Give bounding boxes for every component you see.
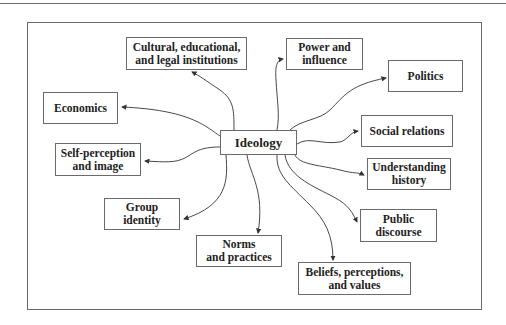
node-group: Group identity: [104, 198, 180, 230]
node-label: Power and influence: [298, 41, 351, 67]
node-label: Politics: [408, 70, 444, 83]
node-label: Group identity: [123, 201, 161, 227]
node-history: Understanding history: [367, 158, 451, 190]
node-label: Understanding history: [372, 161, 446, 187]
edge-to-self: [145, 147, 220, 162]
node-label: Beliefs, perceptions, and values: [306, 266, 404, 292]
node-label: Cultural, educational, and legal institu…: [133, 41, 241, 67]
edge-to-history: [295, 155, 364, 175]
node-politics: Politics: [388, 60, 463, 92]
node-cultural: Cultural, educational, and legal institu…: [126, 37, 247, 70]
edge-to-norms: [247, 155, 260, 233]
node-label: Social relations: [370, 125, 445, 138]
node-label: Economics: [54, 102, 107, 115]
node-norms: Norms and practices: [196, 235, 282, 267]
node-power: Power and influence: [286, 38, 363, 70]
edge-to-cultural: [192, 72, 234, 130]
node-label: Norms and practices: [206, 238, 271, 264]
edge-to-group: [184, 155, 227, 219]
node-label: Ideology: [235, 136, 283, 149]
node-social: Social relations: [361, 115, 453, 147]
edge-to-social: [297, 131, 358, 144]
edge-to-beliefs: [277, 155, 333, 260]
node-economics: Economics: [43, 92, 118, 124]
node-ideology: Ideology: [220, 130, 297, 155]
node-public: Public discourse: [360, 209, 437, 242]
node-label: Public discourse: [376, 213, 422, 239]
edge-to-public: [285, 155, 357, 222]
edge-to-economics: [122, 107, 220, 136]
node-beliefs: Beliefs, perceptions, and values: [298, 262, 411, 295]
node-label: Self-perception and image: [61, 147, 136, 173]
node-self: Self-perception and image: [55, 143, 141, 176]
edge-to-power: [276, 59, 283, 130]
